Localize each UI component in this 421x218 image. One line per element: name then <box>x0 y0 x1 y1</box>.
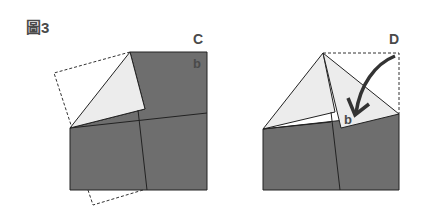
panel-d-left-flap <box>263 53 335 129</box>
figure-title: 圖3 <box>26 19 49 36</box>
panel-d-flap-label: b <box>344 112 352 127</box>
panel-c-label: C <box>193 31 203 47</box>
panel-d-paper <box>263 114 399 190</box>
panel-d-label: D <box>389 31 399 47</box>
panel-c-flap-label: b <box>193 56 201 71</box>
panel-c-dashed-bottom <box>88 190 143 205</box>
panel-d: D b <box>263 31 399 190</box>
origami-diagram: 圖3 C b D b <box>0 0 421 218</box>
panel-c: C b <box>54 31 207 205</box>
